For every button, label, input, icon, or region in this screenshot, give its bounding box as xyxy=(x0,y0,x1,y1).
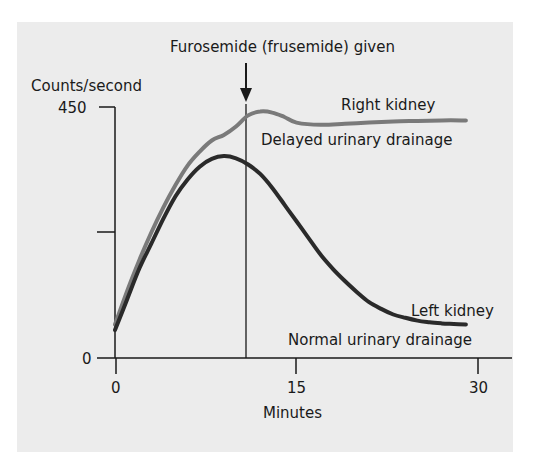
left-kidney-label: Left kidney xyxy=(411,302,494,320)
right-kidney-desc: Delayed urinary drainage xyxy=(261,131,452,149)
chart-svg: Furosemide (frusemide) given Counts/seco… xyxy=(0,0,559,466)
y-tick-label-450: 450 xyxy=(58,99,87,117)
y-axis-title: Counts/second xyxy=(31,77,142,95)
left-kidney-desc: Normal urinary drainage xyxy=(288,331,472,349)
x-tick-label-15: 15 xyxy=(287,379,306,397)
x-axis-title: Minutes xyxy=(263,404,322,422)
annotation-label: Furosemide (frusemide) given xyxy=(170,38,395,56)
right-kidney-label: Right kidney xyxy=(341,96,435,114)
x-tick-label-0: 0 xyxy=(111,379,121,397)
arrow-down-icon xyxy=(240,88,252,102)
y-tick-label-0: 0 xyxy=(82,350,92,368)
x-tick-label-30: 30 xyxy=(469,379,488,397)
